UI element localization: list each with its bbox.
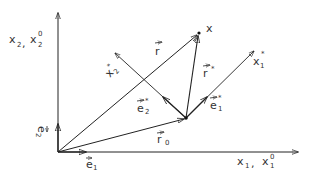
r-star-label: r * [203,65,215,80]
svg-text:0: 0 [270,153,274,161]
x1-axis-label: x 1 , x 0 1 [237,153,274,170]
point-x [197,31,200,34]
e2-star-label: e * 2 [137,97,149,116]
svg-text:,: , [22,37,26,50]
svg-text:2: 2 [34,133,42,137]
svg-text:x: x [253,55,260,68]
e2-label: e 2 [34,126,48,137]
e1-label: e 1 [86,158,97,172]
r-star-vector [186,36,198,118]
svg-text:,: , [251,157,255,170]
svg-text:x: x [237,155,244,168]
svg-text:2: 2 [145,108,149,116]
svg-text:0: 0 [38,30,42,38]
e1-star-label: e * 1 [210,94,222,113]
svg-text:x: x [262,155,269,168]
svg-text:1: 1 [270,162,274,170]
svg-text:r: r [155,45,160,58]
svg-text:x: x [9,33,16,46]
svg-text:1: 1 [260,62,264,70]
svg-text:1: 1 [245,162,249,170]
svg-text:*: * [145,97,149,105]
x2-star-label: x * 2 [101,62,121,82]
svg-text:0: 0 [165,139,169,147]
svg-text:2: 2 [38,41,42,49]
x2-axis-label: x 2 , x 0 2 [9,30,42,50]
svg-text:r: r [203,67,208,80]
r-vector [58,35,197,152]
svg-text:x: x [30,33,37,46]
svg-text:*: * [218,94,222,102]
point-p [184,116,188,120]
svg-text:e: e [35,126,48,133]
svg-text:1: 1 [93,164,97,172]
svg-text:1: 1 [218,105,222,113]
e2-star-vector [163,97,186,118]
x1-star-label: x * 1 [253,50,265,70]
svg-text:r: r [157,133,162,146]
svg-text:*: * [261,50,265,58]
svg-text:e: e [137,102,144,115]
svg-text:e: e [86,158,93,171]
svg-text:*: * [211,65,215,73]
svg-text:e: e [210,99,217,112]
coordinate-diagram: x x 2 , x 0 2 x 1 , x 0 1 x * 1 x * 2 r … [0,0,310,183]
r0-label: r 0 [157,132,169,147]
point-x-label: x [206,22,213,35]
r-label: r [155,42,162,58]
svg-text:2: 2 [17,41,21,49]
